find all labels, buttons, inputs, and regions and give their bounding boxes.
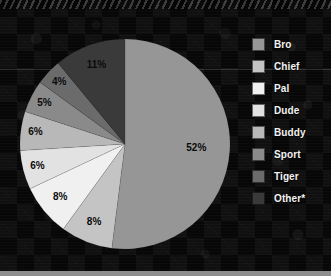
pie-slice-value-label: 4% (52, 76, 67, 87)
pie-slice-value-label: 8% (53, 191, 68, 202)
top-hatched-band (0, 0, 331, 9)
pie-chart-screenshot: 52%8%8%6%6%5%4%11% BroChiefPalDudeBuddyS… (0, 0, 331, 276)
pie-chart-svg: 52%8%8%6%6%5%4%11% (19, 38, 231, 250)
legend-item[interactable]: Dude (252, 99, 328, 121)
pie-slice-value-label: 11% (87, 59, 107, 70)
legend-item-label: Tiger (274, 171, 299, 182)
legend-item[interactable]: Bro (252, 33, 328, 55)
legend-color-swatch (252, 60, 265, 73)
footer-bar (0, 271, 331, 276)
pie-slice-value-label: 6% (30, 160, 45, 171)
legend-item-label: Sport (274, 149, 301, 160)
legend-color-swatch (252, 148, 265, 161)
pie-slice[interactable] (112, 39, 230, 249)
legend-item[interactable]: Tiger (252, 165, 328, 187)
legend-color-swatch (252, 82, 265, 95)
legend-item[interactable]: Other* (252, 187, 328, 209)
pie-slice-value-label: 8% (87, 216, 102, 227)
legend-color-swatch (252, 38, 265, 51)
legend-color-swatch (252, 192, 265, 205)
legend-item-label: Dude (274, 105, 299, 116)
legend-item[interactable]: Pal (252, 77, 328, 99)
legend-color-swatch (252, 126, 265, 139)
legend-item-label: Bro (274, 39, 292, 50)
legend-item[interactable]: Sport (252, 143, 328, 165)
legend-color-swatch (252, 104, 265, 117)
legend-item[interactable]: Buddy (252, 121, 328, 143)
legend-item-label: Buddy (274, 127, 306, 138)
legend-item[interactable]: Chief (252, 55, 328, 77)
pie-slice-value-label: 5% (37, 97, 52, 108)
chart-legend: BroChiefPalDudeBuddySportTigerOther* (252, 33, 328, 209)
pie-slice-value-label: 6% (28, 126, 43, 137)
pie-slice-value-label: 52% (186, 142, 206, 153)
pie-chart: 52%8%8%6%6%5%4%11% (19, 38, 231, 250)
legend-item-label: Pal (274, 83, 289, 94)
legend-item-label: Other* (274, 193, 305, 204)
legend-item-label: Chief (274, 61, 300, 72)
legend-color-swatch (252, 170, 265, 183)
